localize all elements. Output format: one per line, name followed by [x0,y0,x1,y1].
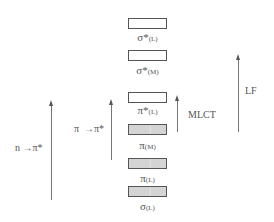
mlct-arrow-icon [177,100,178,132]
level-pi-metal [128,124,167,135]
level-label-pi-star-ligand: π*(L) [128,105,167,118]
pi-to-pi-star-label: π →π* [74,124,104,134]
level-pi-ligand [128,158,167,169]
mo-diagram: σ*(L) σ*(M) π*(L) π(M) π(L) σ(L) n →π* π… [0,0,274,222]
n-to-pi-star-label: n →π* [15,143,43,153]
level-sigma-star-metal [128,50,167,61]
level-label-sigma-ligand: σ(L) [128,201,167,214]
level-label-pi-metal: π(M) [128,140,167,153]
level-sigma-ligand [128,186,167,197]
level-label-sigma-star-ligand: σ*(L) [128,32,167,45]
pi-to-pi-star-arrow-icon [111,104,112,160]
lf-arrow-icon [238,59,239,132]
lf-label: LF [245,86,257,96]
level-pi-star-ligand [128,92,167,103]
mlct-label: MLCT [188,110,216,120]
level-label-pi-ligand: π(L) [128,173,167,186]
level-sigma-star-ligand [128,18,167,29]
n-to-pi-star-arrow-icon [51,105,52,200]
level-label-sigma-star-metal: σ*(M) [128,65,167,78]
